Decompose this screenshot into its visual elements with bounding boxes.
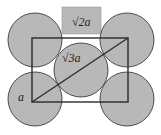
circle-bottom-right <box>100 72 154 126</box>
circle-bottom-left <box>8 72 62 126</box>
label-left: a <box>18 90 24 104</box>
label-top: √2a <box>72 15 91 29</box>
crystal-diagram: √2a √3a a <box>0 0 161 135</box>
label-middle: √3a <box>62 51 81 65</box>
circle-top-right <box>100 13 154 67</box>
circle-top-left <box>8 13 62 67</box>
